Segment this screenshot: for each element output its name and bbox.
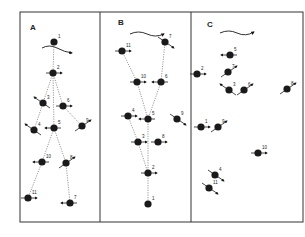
fish-node [240, 86, 247, 93]
node-label: 5 [58, 120, 61, 125]
node-label: 10 [46, 154, 52, 159]
fish-node [134, 138, 141, 145]
fish-node [144, 200, 151, 207]
fish-node [49, 69, 56, 76]
node-label: 11 [126, 43, 131, 48]
node-label: 10 [141, 74, 147, 79]
node-label: 9 [86, 118, 89, 123]
fish-node [39, 99, 46, 106]
fish-node [118, 47, 125, 54]
fish-node [254, 149, 261, 156]
node-label: 2 [57, 65, 60, 70]
fish-node [224, 68, 231, 75]
node-label: 4 [38, 122, 41, 127]
node-label: 4 [132, 108, 135, 113]
node-label: 6 [67, 98, 70, 103]
node-label: 9 [222, 119, 225, 124]
fish-node [59, 102, 66, 109]
fish-node [173, 115, 180, 122]
node-label: 1 [205, 119, 208, 124]
fish-node [50, 38, 57, 45]
fish-node [283, 85, 290, 92]
fish-node [157, 78, 164, 85]
fish-node [144, 169, 151, 176]
node-label: 7 [74, 195, 77, 200]
fish-node [50, 124, 57, 131]
schooling-diagram-figure: 1236459108117 1171064593821 572368191041… [0, 0, 305, 237]
neighbor-link [53, 73, 54, 128]
fish-node [193, 70, 200, 77]
node-label: 10 [262, 145, 268, 150]
fish-node [144, 115, 151, 122]
neighbor-link [54, 128, 66, 163]
fish-node [161, 38, 168, 45]
neighbor-link [63, 106, 82, 126]
neighbor-link [53, 73, 63, 106]
node-label: 4 [219, 167, 222, 172]
fish-node [24, 194, 31, 201]
node-label: 8 [70, 155, 73, 160]
neighbor-link [137, 82, 148, 119]
fish-node [197, 123, 204, 130]
flow-direction-arrow [220, 31, 254, 35]
node-label: 2 [152, 165, 155, 170]
node-label: 6 [165, 74, 168, 79]
flow-direction-arrow [42, 46, 72, 53]
node-label: 8 [291, 81, 294, 86]
node-label: 1 [58, 34, 61, 39]
fish-node [30, 126, 37, 133]
panel-label-a: A [30, 23, 36, 32]
fish-node [62, 159, 69, 166]
flow-direction-arrow [130, 32, 164, 36]
neighbor-link [66, 163, 70, 203]
node-label: 5 [234, 47, 237, 52]
fish-node [154, 138, 161, 145]
fish-node [205, 184, 212, 191]
node-label: 9 [181, 111, 184, 116]
panel-c: 5723681910411 [190, 31, 296, 194]
node-label: 3 [142, 134, 145, 139]
figure-frame [20, 12, 303, 222]
node-label: 8 [162, 134, 165, 139]
panel-a: 1236459108117 [21, 34, 91, 207]
node-label: 11 [213, 180, 218, 185]
fish-node [226, 51, 233, 58]
fish-node [124, 112, 131, 119]
panel-label-c: C [207, 20, 213, 29]
node-label: 7 [169, 34, 172, 39]
fish-node [211, 171, 218, 178]
fish-node [133, 78, 140, 85]
neighbor-link [128, 116, 138, 142]
fish-node [214, 123, 221, 130]
neighbor-link [122, 51, 137, 82]
node-label: 3 [233, 82, 236, 87]
node-label: 1 [152, 196, 155, 201]
neighbor-link [138, 142, 148, 173]
panel-b: 1171064593821 [115, 32, 186, 208]
node-label: 5 [152, 111, 155, 116]
node-label: 11 [32, 190, 37, 195]
fish-node [225, 86, 232, 93]
node-label: 2 [201, 66, 204, 71]
fish-node [38, 158, 45, 165]
fish-node [66, 199, 73, 206]
fish-node [78, 122, 85, 129]
panel-label-b: B [118, 18, 124, 27]
node-label: 6 [248, 82, 251, 87]
node-label: 7 [232, 64, 235, 69]
node-label: 3 [47, 95, 50, 100]
